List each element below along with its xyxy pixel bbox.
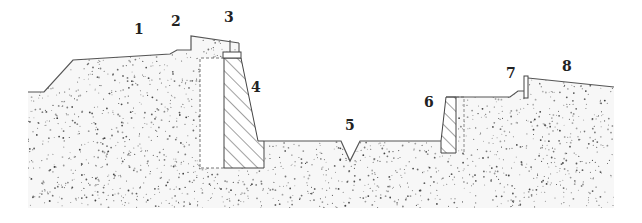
guard-post [524, 76, 528, 98]
label-7: 7 [506, 66, 516, 80]
soil-mass [0, 0, 642, 223]
retaining-wall-right [441, 97, 456, 153]
label-2: 2 [171, 14, 181, 28]
cross-section-diagram: 1 2 3 4 5 6 7 8 [0, 0, 642, 223]
label-8: 8 [562, 59, 572, 73]
excavation-line-left [200, 58, 224, 168]
wall-cap-left [223, 52, 241, 58]
label-3: 3 [224, 10, 234, 24]
label-6: 6 [424, 95, 434, 109]
label-4: 4 [251, 80, 261, 94]
label-5: 5 [345, 118, 355, 132]
cross-section-svg [0, 0, 642, 223]
label-1: 1 [134, 22, 144, 36]
retaining-wall-left [224, 58, 264, 168]
